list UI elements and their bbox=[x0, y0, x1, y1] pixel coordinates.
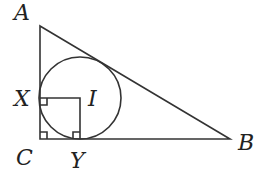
label-x: X bbox=[12, 86, 31, 111]
right-angle-mark-c bbox=[40, 132, 47, 139]
label-c: C bbox=[16, 145, 33, 170]
right-angle-mark-x bbox=[40, 98, 47, 105]
triangle-abc bbox=[40, 26, 230, 139]
label-a: A bbox=[12, 0, 30, 25]
geometry-diagram: A X I C Y B bbox=[0, 0, 263, 176]
square-cxiy bbox=[40, 98, 80, 139]
label-i: I bbox=[87, 86, 98, 111]
label-b: B bbox=[237, 130, 254, 155]
label-y: Y bbox=[70, 148, 87, 173]
